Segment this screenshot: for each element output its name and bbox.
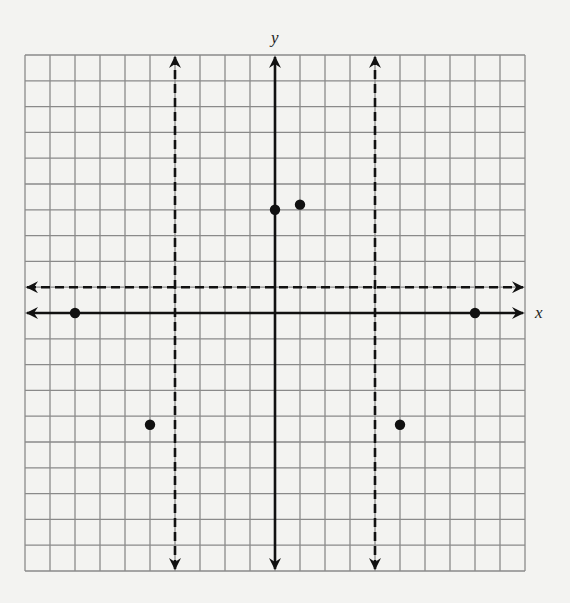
data-point — [145, 420, 155, 430]
y-axis-label: y — [269, 28, 279, 47]
data-point — [470, 308, 480, 318]
data-point — [395, 420, 405, 430]
x-axis-label: x — [534, 303, 543, 322]
data-point — [70, 308, 80, 318]
coordinate-plane: x y — [0, 0, 570, 603]
data-point — [270, 205, 280, 215]
data-point — [295, 199, 305, 209]
axes — [27, 57, 523, 569]
